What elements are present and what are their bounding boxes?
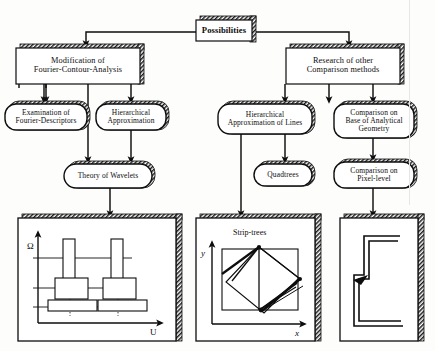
node-theory-of-wavelets[interactable]	[64, 161, 155, 188]
node-examination-fourier-descriptors[interactable]	[5, 101, 90, 130]
node-modification-fourier-contour-analysis[interactable]	[16, 44, 144, 84]
axis-label-x: x	[295, 328, 299, 338]
node-hierarchical-approximation-of-lines[interactable]	[218, 101, 315, 134]
diagram-canvas: Possibilities Modification of Fourier-Co…	[0, 0, 435, 351]
axis-label-omega: Ω	[27, 241, 34, 251]
flowchart-svg	[0, 0, 435, 351]
node-research-other-comparison-methods[interactable]	[286, 44, 404, 84]
node-comparison-pixel-level[interactable]	[334, 159, 417, 188]
axis-label-u: U	[150, 327, 157, 337]
node-possibilities[interactable]	[196, 16, 256, 42]
panel-pixel[interactable]	[340, 214, 424, 341]
axis-label-y: y	[201, 248, 205, 258]
panel-caption-striptrees: Strip-trees	[233, 228, 266, 237]
node-comparison-base-analytical-geometry[interactable]	[334, 101, 417, 138]
panel-wavelet[interactable]	[18, 214, 182, 341]
node-hierarchical-approximation[interactable]	[96, 101, 169, 130]
node-quadtrees[interactable]	[254, 161, 315, 186]
scan-artifact-line	[409, 0, 410, 205]
